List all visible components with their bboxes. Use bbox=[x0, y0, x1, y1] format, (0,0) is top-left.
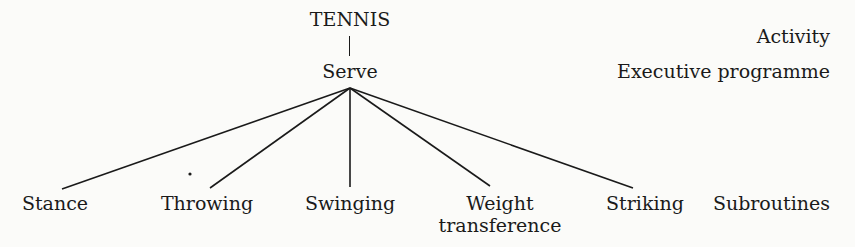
arrow-mark-icon bbox=[188, 172, 191, 175]
connector-striking bbox=[350, 88, 633, 188]
node-throwing: Throwing bbox=[161, 192, 253, 214]
level-label-subroutines: Subroutines bbox=[713, 192, 830, 214]
level-label-executive: Executive programme bbox=[617, 60, 830, 82]
node-weight-transference: Weight transference bbox=[439, 192, 562, 236]
connector-weight-transference bbox=[350, 88, 490, 186]
node-swinging: Swinging bbox=[305, 192, 395, 214]
node-stance: Stance bbox=[22, 192, 88, 214]
level-label-activity: Activity bbox=[757, 25, 830, 47]
node-striking: Striking bbox=[606, 192, 684, 214]
connector-throwing bbox=[210, 88, 350, 188]
node-weight-line2: transference bbox=[439, 214, 562, 236]
connector-stance bbox=[62, 88, 350, 189]
node-weight-line1: Weight bbox=[439, 192, 562, 214]
